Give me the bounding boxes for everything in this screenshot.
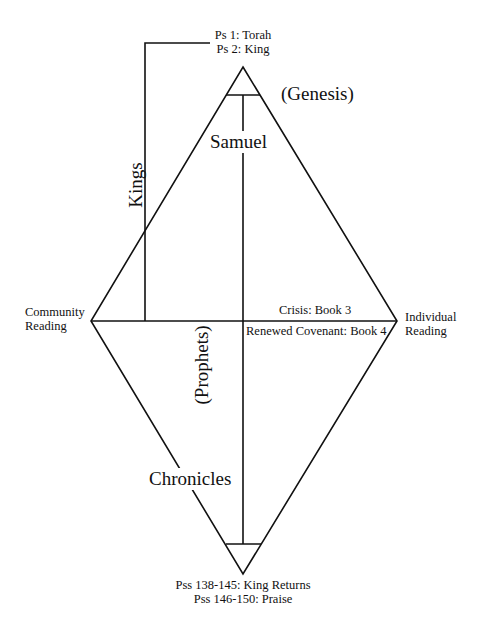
bottom-label-line2: Pss 146-150: Praise	[143, 592, 343, 606]
left-label-line2: Reading	[25, 319, 85, 333]
right-label-line2: Reading	[405, 324, 456, 338]
top-label: Ps 1: Torah Ps 2: King	[193, 28, 293, 57]
prophets-label: (Prophets)	[191, 320, 213, 410]
right-label: Individual Reading	[405, 310, 456, 339]
crisis-label: Crisis: Book 3	[279, 303, 351, 317]
kings-bracket	[145, 43, 210, 321]
top-label-line2: Ps 2: King	[193, 42, 293, 56]
genesis-label: (Genesis)	[281, 83, 354, 105]
kings-label: Kings	[125, 160, 147, 210]
bottom-label: Pss 138-145: King Returns Pss 146-150: P…	[143, 578, 343, 607]
right-label-line1: Individual	[405, 310, 456, 324]
bottom-label-line1: Pss 138-145: King Returns	[143, 578, 343, 592]
left-label: Community Reading	[25, 305, 85, 334]
left-label-line1: Community	[25, 305, 85, 319]
chronicles-label: Chronicles	[147, 468, 233, 490]
samuel-label: Samuel	[208, 131, 269, 153]
renewed-covenant-label: Renewed Covenant: Book 4	[246, 324, 387, 338]
top-label-line1: Ps 1: Torah	[193, 28, 293, 42]
